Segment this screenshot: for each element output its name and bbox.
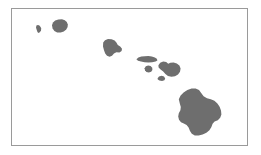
island-kahoolawe <box>158 76 166 81</box>
island-hawaii <box>178 88 221 135</box>
islands-layer <box>36 19 221 135</box>
island-maui <box>158 62 180 77</box>
island-molokai <box>136 56 157 62</box>
island-oahu <box>103 39 122 57</box>
island-niihau <box>36 25 41 33</box>
island-kauai <box>52 19 68 32</box>
hawaii-islands-map <box>0 0 261 155</box>
hawaii-map-figure <box>0 0 261 155</box>
island-lanai <box>145 65 153 72</box>
